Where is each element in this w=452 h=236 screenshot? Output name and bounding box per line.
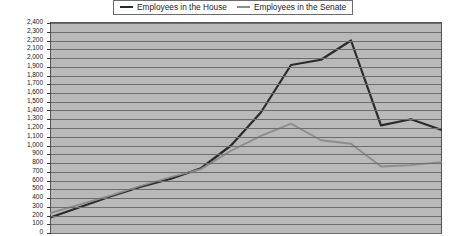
y-axis-tickmark [47, 154, 51, 155]
y-axis-tick-label: 1,200 [27, 124, 43, 131]
y-axis-tickmark [47, 224, 51, 225]
y-axis-tick-label: 1,000 [27, 141, 43, 148]
legend-item-house[interactable]: Employees in the House [120, 3, 227, 11]
y-axis-tick-label: 200 [32, 211, 43, 218]
y-axis-tick-label: 2,200 [27, 36, 43, 43]
gridline [51, 41, 441, 42]
y-axis-tick-label: 500 [32, 185, 43, 192]
plot-area [50, 22, 442, 234]
y-axis-labels: 2,4002,3002,2002,1002,0001,9001,8001,700… [0, 18, 46, 236]
y-axis-tick-label: 600 [32, 176, 43, 183]
line-swatch-icon [120, 6, 133, 8]
gridline [51, 163, 441, 164]
legend-label-senate: Employees in the Senate [254, 3, 346, 11]
gridline [51, 172, 441, 173]
y-axis-tick-label: 0 [39, 229, 43, 236]
gridline [51, 128, 441, 129]
y-axis-tickmark [47, 216, 51, 217]
gridline [51, 119, 441, 120]
y-axis-tickmark [47, 128, 51, 129]
gridline [51, 189, 441, 190]
y-axis-tickmark [47, 110, 51, 111]
gridline [51, 76, 441, 77]
y-axis-tickmark [47, 58, 51, 59]
legend-item-senate[interactable]: Employees in the Senate [237, 3, 346, 11]
gridline [51, 216, 441, 217]
chart-root: Employees in the House Employees in the … [0, 0, 452, 236]
y-axis-tickmark [47, 76, 51, 77]
y-axis-tick-label: 300 [32, 202, 43, 209]
y-axis-tick-label: 1,100 [27, 132, 43, 139]
y-axis-tickmark [47, 172, 51, 173]
gridline [51, 102, 441, 103]
y-axis-tickmark [47, 84, 51, 85]
y-axis-tick-label: 700 [32, 167, 43, 174]
y-axis-tickmark [47, 198, 51, 199]
y-axis-tickmark [47, 32, 51, 33]
line-swatch-icon [237, 6, 250, 8]
y-axis-tickmark [47, 119, 51, 120]
y-axis-tickmark [47, 146, 51, 147]
y-axis-tick-label: 2,000 [27, 54, 43, 61]
y-axis-tick-label: 900 [32, 150, 43, 157]
gridline [51, 137, 441, 138]
chart-legend: Employees in the House Employees in the … [113, 0, 353, 15]
y-axis-tickmark [47, 233, 51, 234]
y-axis-tickmark [47, 67, 51, 68]
gridline [51, 181, 441, 182]
y-axis-tickmark [47, 181, 51, 182]
gridline [51, 67, 441, 68]
y-axis-tick-label: 100 [32, 220, 43, 227]
gridline [51, 23, 441, 24]
gridline [51, 233, 441, 234]
y-axis-tick-label: 1,400 [27, 106, 43, 113]
y-axis-tick-label: 1,500 [27, 97, 43, 104]
y-axis-tickmark [47, 189, 51, 190]
y-axis-tick-label: 2,300 [27, 27, 43, 34]
y-axis-tickmark [47, 23, 51, 24]
y-axis-tick-label: 1,700 [27, 80, 43, 87]
gridline [51, 146, 441, 147]
gridline [51, 32, 441, 33]
y-axis-tick-label: 400 [32, 194, 43, 201]
y-axis-tick-label: 1,800 [27, 71, 43, 78]
y-axis-tickmark [47, 102, 51, 103]
y-axis-tickmark [47, 163, 51, 164]
gridline [51, 207, 441, 208]
y-axis-tickmark [47, 93, 51, 94]
y-axis-tick-label: 2,100 [27, 45, 43, 52]
legend-label-house: Employees in the House [137, 3, 227, 11]
y-axis-tickmark [47, 41, 51, 42]
y-axis-tickmark [47, 49, 51, 50]
y-axis-tick-label: 2,400 [27, 19, 43, 26]
gridline [51, 84, 441, 85]
gridline [51, 49, 441, 50]
gridline [51, 154, 441, 155]
gridline [51, 198, 441, 199]
y-axis-tick-label: 800 [32, 159, 43, 166]
y-axis-tickmark [47, 137, 51, 138]
gridline [51, 224, 441, 225]
y-axis-tickmark [47, 207, 51, 208]
gridline [51, 110, 441, 111]
gridline [51, 58, 441, 59]
y-axis-tick-label: 1,900 [27, 62, 43, 69]
y-axis-tick-label: 1,600 [27, 89, 43, 96]
gridline [51, 93, 441, 94]
y-axis-tick-label: 1,300 [27, 115, 43, 122]
